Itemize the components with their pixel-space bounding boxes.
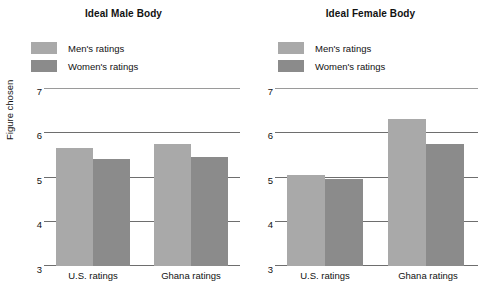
legend-item-mens-ratings: Men's ratings — [278, 40, 385, 56]
x-tick-us-ratings: U.S. ratings — [44, 270, 142, 281]
bar-ghana-ratings-women-s-ratings — [426, 144, 464, 266]
gridline-7 — [44, 88, 240, 89]
gridline-6 — [275, 132, 478, 133]
legend-label-mens-ratings: Men's ratings — [315, 43, 371, 54]
y-tick-7: 7 — [30, 86, 42, 97]
x-tick-ghana-ratings: Ghana ratings — [142, 270, 240, 281]
legend-item-mens-ratings: Men's ratings — [31, 40, 138, 56]
bar-ghana-ratings-women-s-ratings — [191, 157, 228, 266]
plot-area — [44, 88, 240, 266]
x-tick-ghana-ratings: Ghana ratings — [378, 270, 478, 281]
gridline-7 — [275, 88, 478, 89]
legend: Men's ratings Women's ratings — [31, 40, 138, 76]
y-tick-3: 3 — [261, 264, 273, 275]
plot-area — [275, 88, 478, 266]
gridline-6 — [44, 132, 240, 133]
x-tick-us-ratings: U.S. ratings — [275, 270, 375, 281]
chart-title: Ideal Female Body — [247, 8, 494, 19]
y-tick-6: 6 — [30, 130, 42, 141]
y-tick-6: 6 — [261, 130, 273, 141]
legend-label-womens-ratings: Women's ratings — [68, 61, 138, 72]
y-tick-5: 5 — [261, 175, 273, 186]
bar-u-s-ratings-men-s-ratings — [56, 148, 93, 266]
legend-label-womens-ratings: Women's ratings — [315, 61, 385, 72]
figure-container: Ideal Male Body Men's ratings Women's ra… — [0, 0, 494, 294]
chart-panel-ideal-female-body: Ideal Female Body Men's ratings Women's … — [247, 0, 494, 294]
bar-ghana-ratings-men-s-ratings — [154, 144, 191, 266]
legend-item-womens-ratings: Women's ratings — [31, 58, 138, 74]
chart-panel-ideal-male-body: Ideal Male Body Men's ratings Women's ra… — [0, 0, 247, 294]
bar-ghana-ratings-men-s-ratings — [388, 119, 426, 266]
bar-u-s-ratings-women-s-ratings — [93, 159, 130, 266]
bar-u-s-ratings-men-s-ratings — [287, 175, 325, 266]
chart-title: Ideal Male Body — [0, 8, 247, 19]
y-tick-4: 4 — [261, 219, 273, 230]
bar-u-s-ratings-women-s-ratings — [325, 179, 363, 266]
y-tick-5: 5 — [30, 175, 42, 186]
legend-swatch-mens-ratings — [31, 42, 57, 54]
legend-label-mens-ratings: Men's ratings — [68, 43, 124, 54]
legend: Men's ratings Women's ratings — [278, 40, 385, 76]
legend-item-womens-ratings: Women's ratings — [278, 58, 385, 74]
y-axis-label: Figure chosen — [4, 126, 15, 140]
legend-swatch-mens-ratings — [278, 42, 304, 54]
legend-swatch-womens-ratings — [31, 60, 57, 72]
y-tick-4: 4 — [30, 219, 42, 230]
y-tick-3: 3 — [30, 264, 42, 275]
legend-swatch-womens-ratings — [278, 60, 304, 72]
y-tick-7: 7 — [261, 86, 273, 97]
